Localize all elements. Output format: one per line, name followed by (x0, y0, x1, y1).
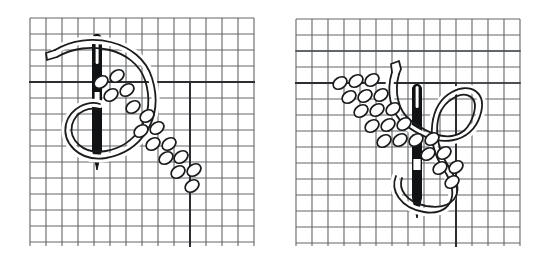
bead (157, 149, 176, 167)
right-panel (271, 0, 542, 263)
bead (352, 102, 371, 120)
graph-paper-grid (296, 19, 520, 246)
bead (183, 177, 202, 195)
bead (347, 72, 366, 90)
bead (160, 135, 179, 153)
bead (363, 71, 382, 89)
bead (185, 161, 204, 179)
stitch-diagram-figure (0, 0, 543, 263)
sewing-needle (413, 84, 422, 218)
thread-tail (46, 50, 57, 60)
bead (363, 117, 382, 135)
needle-eye-lower-notch (413, 159, 420, 170)
left-panel-drawing (0, 0, 271, 263)
bead (368, 101, 387, 119)
left-panel (0, 0, 271, 263)
bead (391, 131, 410, 149)
right-panel-drawing (271, 0, 543, 263)
bead (356, 87, 375, 105)
bead (331, 74, 350, 92)
thread-tail (391, 61, 401, 74)
bead (102, 86, 121, 104)
bead (340, 88, 359, 106)
bead (118, 81, 137, 99)
needle-eye (416, 86, 419, 108)
